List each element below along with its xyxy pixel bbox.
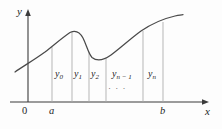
origin-label: 0 bbox=[22, 106, 27, 117]
y-axis-label: y bbox=[17, 6, 22, 17]
ordinate-label-1-sub: 1 bbox=[78, 73, 82, 81]
x-axis-label: x bbox=[205, 106, 210, 117]
function-curve bbox=[15, 15, 183, 72]
ordinate-label-n: yn bbox=[148, 69, 156, 79]
ordinate-label-n-minus-1: yn − 1 bbox=[112, 69, 132, 79]
ordinate-label-n-sub: n bbox=[152, 73, 156, 81]
figure-canvas bbox=[0, 0, 222, 129]
ordinate-label-0-sub: 0 bbox=[59, 73, 63, 81]
ordinate-label-2-sub: 2 bbox=[95, 73, 99, 81]
ordinate-figure: y x 0 a b y0 y1 y2 yn − 1 yn · · · bbox=[0, 0, 222, 129]
ordinate-label-n-minus-1-sub: n − 1 bbox=[116, 73, 131, 81]
lower-bound-label: a bbox=[49, 106, 54, 117]
ordinate-label-1: y1 bbox=[74, 69, 82, 79]
ellipsis-label: · · · bbox=[108, 84, 127, 93]
ordinate-label-2: y2 bbox=[91, 69, 99, 79]
x-axis-arrow-icon bbox=[202, 99, 209, 105]
upper-bound-label: b bbox=[160, 106, 165, 117]
y-axis-arrow-icon bbox=[25, 9, 31, 16]
ordinate-label-0: y0 bbox=[55, 69, 63, 79]
